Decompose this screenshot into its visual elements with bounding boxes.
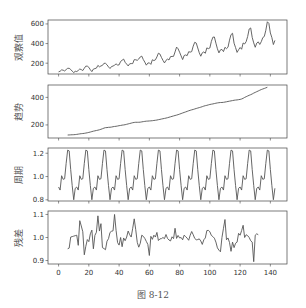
y-tick-label: 1.0 [33, 234, 44, 242]
x-tick-label: 0 [56, 269, 60, 277]
y-tick-label: 600 [31, 20, 44, 28]
seasonal-ylabel: 周期 [14, 166, 24, 184]
decomposition-figure: 200400600观察值200400趋势0.81.01.2周期0.91.01.1… [0, 0, 306, 308]
y-tick-label: 0.8 [33, 196, 44, 204]
y-tick-label: 1.2 [33, 150, 44, 158]
observed-ylabel: 观察值 [13, 34, 24, 61]
y-tick-label: 1.0 [33, 173, 44, 181]
trend-line [68, 87, 268, 135]
y-tick-label: 200 [31, 60, 44, 68]
panel-residual: 0.91.01.1020406080100120140残差 [13, 211, 287, 277]
residual-line [68, 214, 259, 261]
y-tick-label: 200 [31, 121, 44, 129]
y-tick-label: 1.1 [33, 211, 44, 219]
x-tick-label: 100 [203, 269, 216, 277]
panel-seasonal: 0.81.01.2周期 [14, 148, 287, 204]
x-tick-label: 140 [264, 269, 277, 277]
x-tick-label: 20 [84, 269, 93, 277]
x-tick-label: 120 [233, 269, 246, 277]
x-tick-label: 60 [145, 269, 154, 277]
observed-line [59, 22, 275, 73]
chart-svg: 200400600观察值200400趋势0.81.01.2周期0.91.01.1… [0, 0, 306, 308]
seasonal-line [59, 150, 275, 200]
y-tick-label: 0.9 [33, 257, 44, 265]
y-tick-label: 400 [31, 40, 44, 48]
figure-caption: 图 8-12 [0, 288, 306, 301]
residual-ylabel: 残差 [13, 229, 24, 247]
panel-trend: 200400趋势 [13, 85, 287, 141]
axes-frame [48, 85, 287, 138]
y-tick-label: 400 [31, 94, 44, 102]
panel-observed: 200400600观察值 [13, 20, 287, 77]
x-tick-label: 80 [175, 269, 184, 277]
trend-ylabel: 趋势 [13, 103, 24, 121]
x-tick-label: 40 [115, 269, 124, 277]
